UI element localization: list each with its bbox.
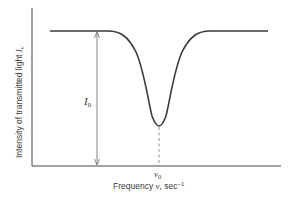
i0-label: I0: [83, 95, 92, 109]
transmission-curve: [50, 31, 268, 126]
nu0-tick-label: ν0: [154, 169, 161, 180]
x-axis-label: Frequency ν, sec−1: [113, 181, 185, 192]
absorption-line-diagram: I0 ν0 Frequency ν, sec−1 Intensity of tr…: [0, 0, 295, 198]
i0-arrow: [95, 32, 100, 165]
y-axis-label: Intensity of transmitted light Iν: [14, 46, 25, 158]
